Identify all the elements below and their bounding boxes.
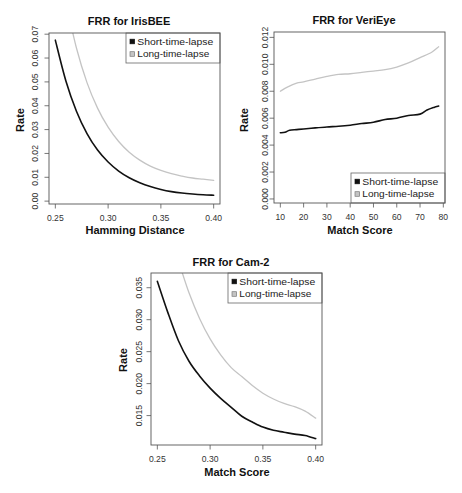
x-axis-label: Match Score — [204, 466, 269, 478]
x-tick-label: 0.40 — [205, 213, 222, 223]
x-tick-label: 10 — [276, 212, 286, 222]
x-tick-label: 0.30 — [100, 213, 117, 223]
chart-title: FRR for VeriEye — [312, 14, 395, 26]
y-tick-label: 0.05 — [31, 73, 41, 90]
y-tick-label: 0.006 — [261, 107, 271, 129]
legend-label: Short-time-lapse — [362, 177, 438, 187]
x-tick-label: 50 — [369, 212, 379, 222]
x-tick-label: 80 — [439, 212, 449, 222]
y-tick-label: 0.000 — [261, 188, 271, 210]
legend: Short-time-lapseLong-time-lapse — [228, 273, 322, 303]
x-tick-label: 20 — [299, 212, 309, 222]
y-tick-label: 0.002 — [261, 161, 271, 183]
y-tick-label: 0.04 — [31, 97, 41, 114]
legend-label: Long-time-lapse — [362, 189, 434, 199]
legend: Short-time-lapseLong-time-lapse — [351, 173, 445, 203]
legend-swatch — [355, 179, 360, 184]
y-axis-label: Rate — [14, 108, 26, 132]
x-tick-label: 30 — [322, 212, 332, 222]
y-axis-label: Rate — [238, 108, 250, 132]
legend-swatch — [232, 292, 237, 297]
legend-swatch — [130, 52, 135, 57]
y-tick-label: 0.010 — [261, 53, 271, 75]
legend-swatch — [232, 279, 237, 284]
y-tick-label: 0.035 — [135, 277, 145, 299]
x-tick-label: 70 — [415, 212, 425, 222]
y-axis-label: Rate — [117, 348, 129, 372]
y-tick-label: 0.00 — [31, 193, 41, 210]
legend-swatch — [355, 192, 360, 197]
y-tick-label: 0.07 — [31, 26, 41, 43]
legend-swatch — [130, 39, 135, 44]
x-tick-label: 0.40 — [307, 454, 324, 464]
y-tick-label: 0.030 — [135, 309, 145, 331]
y-tick-label: 0.06 — [31, 49, 41, 66]
x-tick-label: 0.35 — [153, 213, 170, 223]
y-tick-label: 0.02 — [31, 145, 41, 162]
legend-label: Short-time-lapse — [239, 277, 315, 287]
y-tick-label: 0.008 — [261, 80, 271, 102]
legend-label: Long-time-lapse — [239, 289, 311, 299]
x-tick-label: 0.35 — [255, 454, 272, 464]
y-tick-label: 0.01 — [31, 169, 41, 186]
x-axis-label: Match Score — [327, 224, 392, 236]
y-tick-label: 0.020 — [135, 373, 145, 395]
x-tick-label: 0.25 — [149, 454, 166, 464]
y-tick-label: 0.03 — [31, 121, 41, 138]
y-tick-label: 0.015 — [135, 405, 145, 427]
chart-title: FRR for Cam-2 — [192, 256, 269, 268]
x-tick-label: 0.25 — [47, 213, 64, 223]
legend-label: Short-time-lapse — [137, 37, 213, 47]
legend-label: Long-time-lapse — [137, 49, 209, 59]
x-tick-label: 40 — [345, 212, 355, 222]
x-tick-label: 60 — [392, 212, 402, 222]
y-tick-label: 0.012 — [261, 26, 271, 48]
figure-background — [0, 0, 462, 493]
y-tick-label: 0.025 — [135, 341, 145, 363]
y-tick-label: 0.004 — [261, 134, 271, 156]
chart-title: FRR for IrisBEE — [88, 15, 171, 27]
x-axis-label: Hamming Distance — [85, 224, 184, 236]
x-tick-label: 0.30 — [202, 454, 219, 464]
legend: Short-time-lapseLong-time-lapse — [126, 33, 220, 63]
figure: FRR for IrisBEEHamming DistanceRate0.250… — [0, 0, 462, 493]
